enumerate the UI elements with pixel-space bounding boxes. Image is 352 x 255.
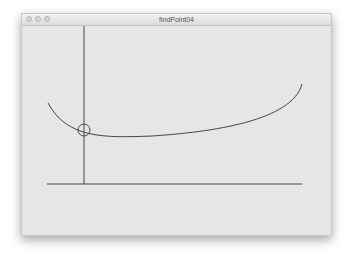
- curve: [48, 84, 302, 137]
- app-window: findPoint04: [21, 13, 332, 236]
- sketch-canvas[interactable]: [22, 26, 331, 235]
- window-title: findPoint04: [22, 14, 331, 25]
- title-bar[interactable]: findPoint04: [22, 14, 331, 26]
